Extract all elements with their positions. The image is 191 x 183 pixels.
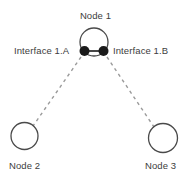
- link-interface1a-node2: [33, 57, 81, 126]
- diagram-canvas: [0, 0, 191, 183]
- node-1-label: Node 1: [0, 10, 191, 21]
- node-3-circle: [149, 124, 178, 153]
- interface-1b-dot: [99, 46, 109, 56]
- node-2-circle: [11, 123, 38, 150]
- network-diagram: Node 1 Interface 1.A Interface 1.B Node …: [0, 0, 191, 183]
- link-interface1b-node3: [107, 57, 154, 127]
- node-2-label: Node 2: [9, 160, 40, 171]
- node-3-label: Node 3: [145, 160, 176, 171]
- interface-1a-dot: [80, 46, 90, 56]
- interface-1b-label: Interface 1.B: [113, 45, 168, 56]
- interface-1a-label: Interface 1.A: [14, 45, 69, 56]
